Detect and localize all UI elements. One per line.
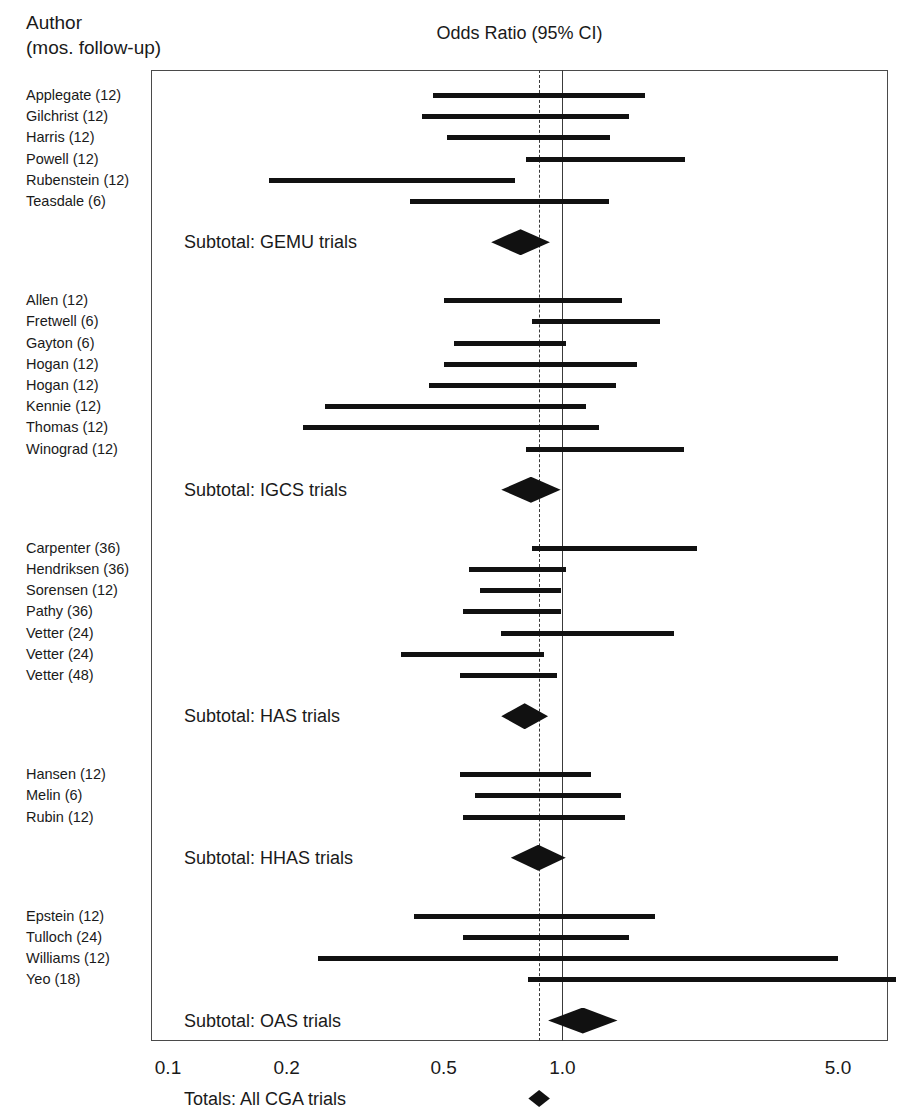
pooled-reference-line (539, 70, 540, 1041)
axis-tick-label: 0.5 (430, 1057, 456, 1079)
page-title: Odds Ratio (95% CI) (436, 23, 602, 44)
axis-tick-label: 5.0 (825, 1057, 851, 1079)
study-label: Rubin (12) (26, 810, 94, 825)
study-label: Vetter (24) (26, 647, 94, 662)
column-header-line2: (mos. follow-up) (26, 37, 161, 58)
study-label: Tulloch (24) (26, 930, 102, 945)
study-label: Pathy (36) (26, 604, 93, 619)
study-label: Harris (12) (26, 130, 94, 145)
confidence-interval-bar (269, 178, 516, 183)
study-label: Yeo (18) (26, 972, 80, 987)
study-label: Rubenstein (12) (26, 173, 129, 188)
confidence-interval-bar (447, 135, 610, 140)
study-label: Gilchrist (12) (26, 109, 108, 124)
study-label: Williams (12) (26, 951, 110, 966)
study-label: Powell (12) (26, 152, 99, 167)
study-label: Thomas (12) (26, 420, 108, 435)
confidence-interval-bar (463, 609, 561, 614)
column-header: Author (mos. follow-up) (26, 10, 161, 60)
confidence-interval-bar (318, 956, 838, 961)
confidence-interval-bar (460, 673, 557, 678)
confidence-interval-bar (414, 914, 655, 919)
confidence-interval-bar (429, 383, 616, 388)
axis-tick-label: 0.1 (155, 1057, 181, 1079)
confidence-interval-bar (303, 425, 599, 430)
study-label: Sorensen (12) (26, 583, 118, 598)
confidence-interval-bar (526, 447, 684, 452)
null-reference-line (562, 70, 563, 1041)
study-label: Fretwell (6) (26, 314, 99, 329)
study-label: Hansen (12) (26, 767, 106, 782)
confidence-interval-bar (444, 362, 638, 367)
confidence-interval-bar (433, 93, 645, 98)
study-label: Hendriksen (36) (26, 562, 129, 577)
confidence-interval-bar (532, 319, 660, 324)
confidence-interval-bar (463, 815, 625, 820)
confidence-interval-bar (444, 298, 623, 303)
confidence-interval-bar (480, 588, 560, 593)
study-label: Winograd (12) (26, 442, 118, 457)
column-header-line1: Author (26, 12, 82, 33)
confidence-interval-bar (528, 977, 895, 982)
study-label: Allen (12) (26, 293, 88, 308)
confidence-interval-bar (422, 114, 630, 119)
subtotal-label: Subtotal: GEMU trials (184, 233, 357, 251)
confidence-interval-bar (401, 652, 544, 657)
confidence-interval-bar (526, 157, 685, 162)
confidence-interval-bar (501, 631, 674, 636)
study-label: Hogan (12) (26, 378, 99, 393)
confidence-interval-bar (532, 546, 697, 551)
axis-tick-label: 0.2 (273, 1057, 299, 1079)
confidence-interval-bar (454, 341, 566, 346)
axis-tick-label: 1.0 (549, 1057, 575, 1079)
total-diamond (528, 1090, 550, 1107)
study-label: Gayton (6) (26, 336, 95, 351)
subtotal-label: Subtotal: HHAS trials (184, 849, 353, 867)
subtotal-label: Subtotal: HAS trials (184, 707, 340, 725)
study-label: Melin (6) (26, 788, 82, 803)
confidence-interval-bar (460, 772, 591, 777)
study-label: Kennie (12) (26, 399, 101, 414)
confidence-interval-bar (410, 199, 609, 204)
total-label: Totals: All CGA trials (184, 1090, 346, 1108)
confidence-interval-bar (463, 935, 629, 940)
subtotal-label: Subtotal: OAS trials (184, 1012, 341, 1030)
study-label: Vetter (48) (26, 668, 94, 683)
study-label: Applegate (12) (26, 88, 121, 103)
subtotal-label: Subtotal: IGCS trials (184, 481, 347, 499)
confidence-interval-bar (325, 404, 586, 409)
study-label: Hogan (12) (26, 357, 99, 372)
confidence-interval-bar (475, 793, 621, 798)
confidence-interval-bar (469, 567, 566, 572)
study-label: Vetter (24) (26, 626, 94, 641)
study-label: Teasdale (6) (26, 194, 106, 209)
study-label: Epstein (12) (26, 909, 104, 924)
plot-frame (151, 70, 888, 1041)
study-label: Carpenter (36) (26, 541, 120, 556)
